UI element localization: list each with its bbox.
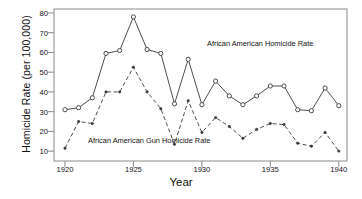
x-tick-label: 1935 xyxy=(262,165,279,174)
y-tick-label: 70 xyxy=(26,28,48,37)
series-homicide-rate xyxy=(63,15,341,113)
y-tick-label: 80 xyxy=(26,8,48,17)
y-tick-label: 60 xyxy=(26,48,48,57)
x-axis-tick-labels: 19201925193019351940 xyxy=(0,165,362,179)
x-tick-label: 1925 xyxy=(125,165,142,174)
series-annotation-gun-homicide-rate: African American Gun Homicide Rate xyxy=(88,136,210,145)
chart-figure: Homicide Rate (per 100,000) Year 1020304… xyxy=(0,0,362,199)
x-tick-label: 1940 xyxy=(330,165,347,174)
y-tick-label: 10 xyxy=(26,147,48,156)
y-tick-label: 20 xyxy=(26,127,48,136)
y-tick-label: 50 xyxy=(26,68,48,77)
y-tick-label: 40 xyxy=(26,87,48,96)
x-tick-label: 1930 xyxy=(193,165,210,174)
data-series xyxy=(63,15,341,153)
y-tick-label: 30 xyxy=(26,107,48,116)
series-annotation-homicide-rate: African American Homicide Rate xyxy=(207,39,313,48)
x-tick-label: 1920 xyxy=(57,165,74,174)
